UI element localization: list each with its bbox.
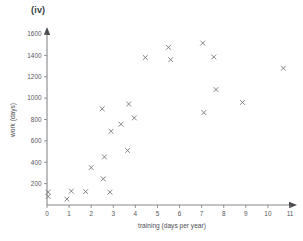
x-tick-label: 10	[264, 210, 272, 217]
y-tick-label: 600	[31, 137, 42, 144]
data-point-marker	[125, 148, 130, 153]
y-tick-label: 400	[31, 159, 42, 166]
data-point-marker	[64, 197, 69, 202]
data-point-marker	[46, 194, 51, 199]
x-tick-label: 0	[45, 210, 49, 217]
data-point-marker	[240, 100, 245, 105]
y-tick-label: 1000	[27, 94, 42, 101]
data-point-marker	[83, 189, 88, 194]
y-tick-label: 200	[31, 180, 42, 187]
data-point-marker	[69, 189, 74, 194]
data-point-marker	[126, 102, 131, 107]
data-point-marker	[46, 190, 51, 195]
axes	[44, 27, 297, 208]
data-point-marker	[211, 55, 216, 60]
data-point-marker	[214, 87, 219, 92]
data-point-marker	[102, 155, 107, 160]
x-tick-label: 1	[67, 210, 71, 217]
y-axis-ticks: 2004006008001000120014001600	[27, 30, 47, 187]
scatter-chart-figure: (iv) 2004006008001000120014001600 012345…	[0, 0, 303, 241]
x-tick-label: 8	[222, 210, 226, 217]
y-tick-label: 1200	[27, 73, 42, 80]
x-tick-label: 5	[156, 210, 160, 217]
x-tick-label: 6	[178, 210, 182, 217]
data-point-marker	[281, 66, 286, 71]
data-point-marker	[143, 55, 148, 60]
data-point-marker	[109, 129, 114, 134]
x-tick-label: 3	[111, 210, 115, 217]
data-point-marker	[108, 190, 113, 195]
x-axis-ticks: 01234567891011	[45, 205, 294, 217]
data-point-marker	[101, 176, 106, 181]
data-points	[46, 41, 286, 202]
y-tick-label: 800	[31, 116, 42, 123]
x-tick-label: 9	[244, 210, 248, 217]
x-tick-label: 11	[287, 210, 294, 217]
data-point-marker	[119, 122, 124, 127]
data-point-marker	[201, 110, 206, 115]
y-axis-title: work (days)	[9, 103, 17, 138]
data-point-marker	[132, 115, 137, 120]
x-axis-title: training (days per year)	[138, 222, 206, 230]
data-point-marker	[168, 57, 173, 62]
y-tick-label: 1400	[27, 52, 42, 59]
x-tick-label: 4	[134, 210, 138, 217]
plot-area: 2004006008001000120014001600 01234567891…	[0, 0, 303, 241]
data-point-marker	[166, 45, 171, 50]
data-point-marker	[200, 41, 205, 46]
data-point-marker	[89, 165, 94, 170]
x-tick-label: 7	[200, 210, 204, 217]
y-tick-label: 1600	[27, 30, 42, 37]
x-tick-label: 2	[89, 210, 93, 217]
data-point-marker	[100, 106, 105, 111]
